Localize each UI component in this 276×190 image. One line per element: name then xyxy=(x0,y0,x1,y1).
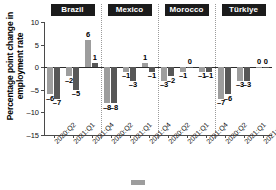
bar xyxy=(256,67,262,68)
y-axis-line xyxy=(44,22,45,135)
y-tick-label: –15 xyxy=(26,132,39,140)
bar xyxy=(142,63,148,68)
bar xyxy=(187,67,193,68)
bar xyxy=(54,67,60,99)
y-tick xyxy=(41,90,44,91)
y-tick-label: –5 xyxy=(31,86,39,94)
bar xyxy=(92,63,98,68)
y-tick-label: 10 xyxy=(31,19,39,27)
bar xyxy=(111,67,117,103)
bar xyxy=(237,67,243,81)
bar-value-label: 1 xyxy=(88,54,102,62)
y-tick-label: 0 xyxy=(35,64,39,72)
bar xyxy=(66,67,72,76)
employment-rate-chart: Percentage point change in employment ra… xyxy=(0,0,276,190)
bar-value-label: –1 xyxy=(176,72,190,80)
y-tick-label: –10 xyxy=(26,109,39,117)
bar xyxy=(130,67,136,81)
panel-header-brazil: Brazil xyxy=(51,4,95,16)
bar-value-label: –3 xyxy=(126,81,140,89)
panel-header-türkiye: Türkiye xyxy=(222,4,266,16)
bar xyxy=(168,67,174,76)
y-tick xyxy=(41,112,44,113)
bar-value-label: 0 xyxy=(259,58,273,66)
bar-value-label: –7 xyxy=(50,99,64,107)
plot-area: 1050–5–10–15 –6–7–2–561–8–8–1–31–1–3–2–1… xyxy=(44,22,272,135)
bar xyxy=(244,67,250,81)
bar xyxy=(225,67,231,94)
bar xyxy=(73,67,79,90)
bar xyxy=(47,67,53,94)
panel-divider xyxy=(101,4,102,139)
chart-legend xyxy=(0,180,276,190)
bar-value-label: 6 xyxy=(81,31,95,39)
y-tick xyxy=(41,22,44,23)
bar-value-label: –1 xyxy=(145,72,159,80)
bar xyxy=(263,67,269,68)
y-tick-label: 5 xyxy=(35,41,39,49)
bar-value-label: –8 xyxy=(107,104,121,112)
legend-swatch-series-1 xyxy=(131,180,145,185)
y-tick xyxy=(41,45,44,46)
y-axis-title: Percentage point change in employment ra… xyxy=(5,6,25,126)
bar-value-label: –3 xyxy=(240,81,254,89)
panel-header-mexico: Mexico xyxy=(108,4,152,16)
panel-header-morocco: Morocco xyxy=(165,4,209,16)
bar-value-label: 1 xyxy=(138,54,152,62)
bar-value-label: –6 xyxy=(221,95,235,103)
bar xyxy=(104,67,110,103)
bar-value-label: –5 xyxy=(69,90,83,98)
bar-value-label: 0 xyxy=(183,58,197,66)
bar-value-label: –1 xyxy=(202,72,216,80)
